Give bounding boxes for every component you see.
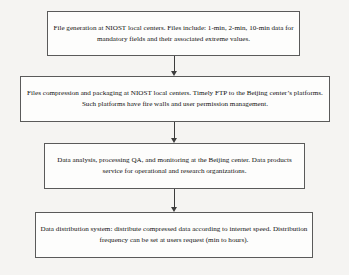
arrow-stem <box>174 189 175 207</box>
flowchart-arrow-2 <box>169 122 181 143</box>
flowchart-arrow-1 <box>169 56 181 76</box>
flowchart-diagram: File generation at NIOST local centers. … <box>0 0 349 275</box>
flowchart-node-compression-packaging: Files compression and packaging at NIOST… <box>20 76 330 122</box>
arrow-stem <box>174 56 175 71</box>
flowchart-node-label: Data analysis, processing QA, and monito… <box>49 155 300 177</box>
arrow-stem <box>174 122 175 138</box>
flowchart-arrow-3 <box>169 189 181 212</box>
flowchart-node-data-distribution: Data distribution system: distribute com… <box>35 212 313 258</box>
flowchart-node-label: Files compression and packaging at NIOST… <box>25 88 325 110</box>
flowchart-node-label: File generation at NIOST local centers. … <box>52 23 295 45</box>
flowchart-node-label: Data distribution system: distribute com… <box>40 224 308 246</box>
flowchart-node-data-analysis: Data analysis, processing QA, and monito… <box>44 143 305 189</box>
flowchart-node-file-generation: File generation at NIOST local centers. … <box>47 11 300 56</box>
